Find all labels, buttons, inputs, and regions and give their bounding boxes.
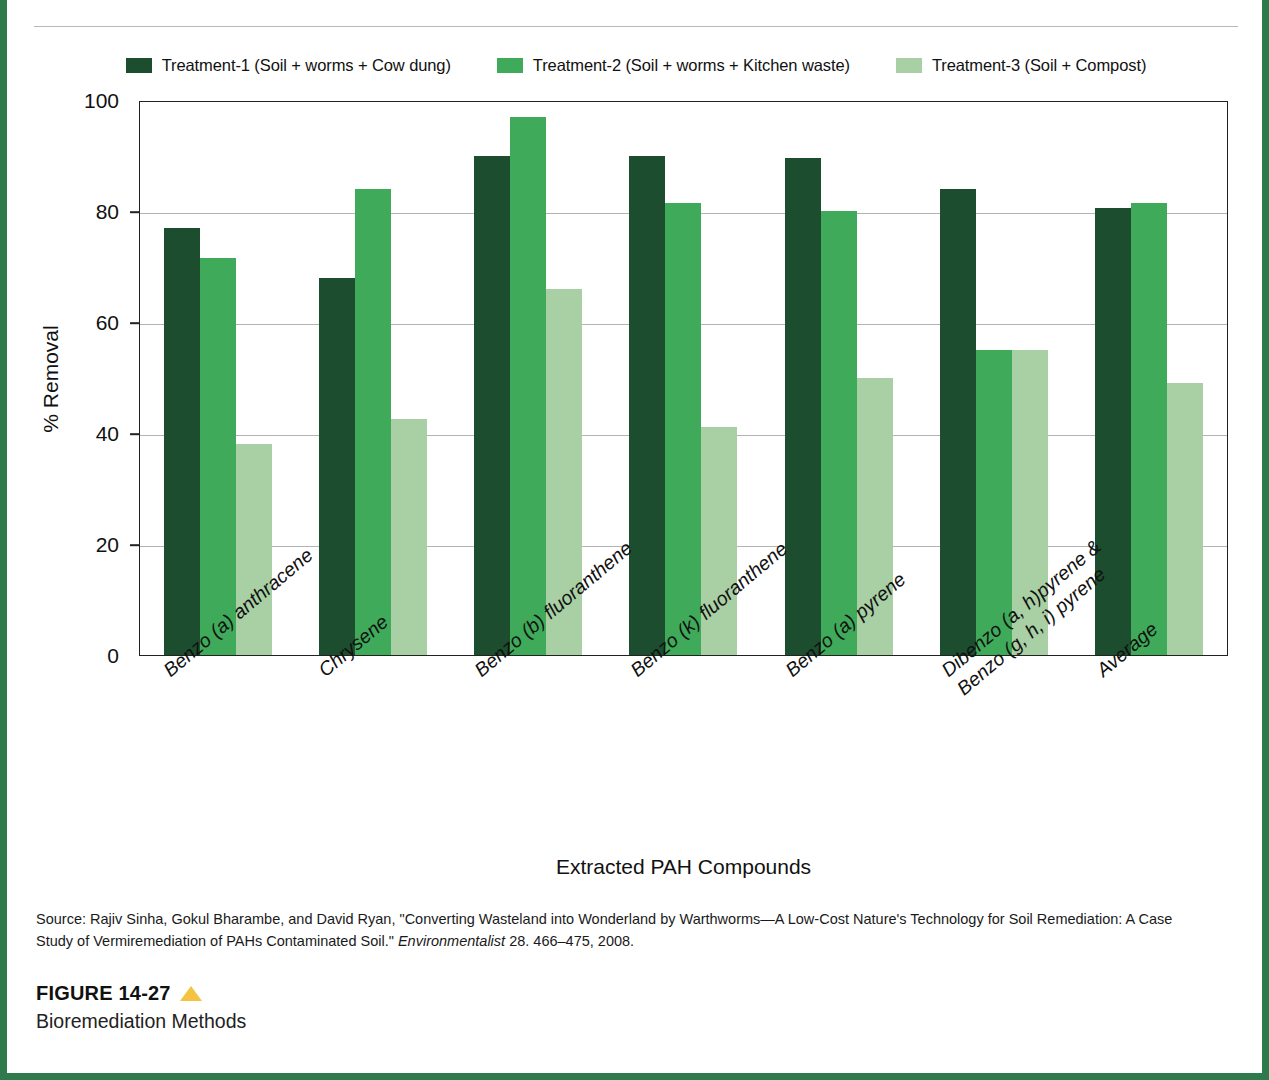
legend-swatch-treatment-1 (126, 58, 152, 73)
y-tick-label: 80 (96, 200, 119, 224)
y-tick-label: 0 (107, 644, 119, 668)
figure-number-row: FIGURE 14-27 (36, 982, 736, 1005)
bar (319, 278, 355, 655)
cropped-header-text (430, 0, 860, 4)
source-line1-part-a: Source: Rajiv Sinha, Gokul Bharambe, and… (36, 911, 760, 927)
bar (665, 203, 701, 655)
bar-group (474, 102, 582, 655)
figure-caption-block: FIGURE 14-27 Bioremediation Methods (36, 982, 736, 1033)
source-line1-part-b: A Low-Cost Nature's (775, 911, 907, 927)
bar-group (164, 102, 272, 655)
bar-group (785, 102, 893, 655)
bar (785, 158, 821, 655)
legend-swatch-treatment-2 (497, 58, 523, 73)
legend-item-treatment-3: Treatment-3 (Soil + Compost) (896, 56, 1146, 75)
source-emdash: — (760, 911, 775, 927)
bar (940, 189, 976, 655)
bar (629, 156, 665, 656)
y-tick-mark (130, 544, 139, 546)
x-axis-category-labels: Benzo (a) anthraceneChryseneBenzo (b) fl… (139, 656, 1228, 846)
bar (510, 117, 546, 655)
bar (164, 228, 200, 655)
bar (391, 419, 427, 655)
bar-group (629, 102, 737, 655)
legend-label-treatment-3: Treatment-3 (Soil + Compost) (932, 56, 1146, 75)
chart-legend: Treatment-1 (Soil + worms + Cow dung) Tr… (34, 56, 1238, 75)
bar-group (940, 102, 1048, 655)
y-tick-label: 20 (96, 533, 119, 557)
source-citation: Source: Rajiv Sinha, Gokul Bharambe, and… (36, 908, 1206, 953)
top-divider-rule (34, 26, 1238, 27)
y-tick-mark (130, 211, 139, 213)
bar (1131, 203, 1167, 655)
source-journal-name: Environmentalist (398, 933, 505, 949)
y-tick-mark (130, 433, 139, 435)
legend-item-treatment-1: Treatment-1 (Soil + worms + Cow dung) (126, 56, 451, 75)
legend-swatch-treatment-3 (896, 58, 922, 73)
y-tick-label: 40 (96, 422, 119, 446)
source-line2-part-b: 28. 466–475, 2008. (505, 933, 634, 949)
bar (200, 258, 236, 655)
y-tick-label: 100 (84, 89, 119, 113)
legend-label-treatment-2: Treatment-2 (Soil + worms + Kitchen wast… (533, 56, 850, 75)
legend-item-treatment-2: Treatment-2 (Soil + worms + Kitchen wast… (497, 56, 850, 75)
y-tick-mark (130, 322, 139, 324)
legend-label-treatment-1: Treatment-1 (Soil + worms + Cow dung) (162, 56, 451, 75)
y-tick-label: 60 (96, 311, 119, 335)
bar (474, 156, 510, 656)
bar (821, 211, 857, 655)
y-axis-ticks: 020406080100 (0, 101, 139, 656)
bar-group (319, 102, 427, 655)
figure-number: FIGURE 14-27 (36, 982, 171, 1005)
figure-title: Bioremediation Methods (36, 1010, 736, 1033)
bar (1167, 383, 1203, 655)
bar (355, 189, 391, 655)
x-axis-title: Extracted PAH Compounds (139, 855, 1228, 879)
warning-triangle-icon (180, 986, 202, 1001)
